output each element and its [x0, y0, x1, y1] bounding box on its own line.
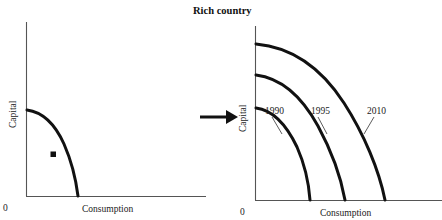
left-origin-label: 0	[3, 203, 8, 213]
curve-label-2010: 2010	[367, 106, 386, 116]
right-origin-label: 0	[240, 207, 245, 217]
right-ppf-curve-1995	[256, 75, 345, 200]
figure-title: Rich country	[193, 5, 252, 16]
left-ppf-point-marker	[51, 152, 57, 158]
right-y-axis-label: Capital	[238, 104, 248, 132]
left-y-axis-label: Capital	[8, 100, 18, 128]
curve-label-1995: 1995	[311, 106, 330, 116]
curve-label-1990: 1990	[265, 106, 284, 116]
right-panel-group: Rich country 1990 1995 2010 0 Consumptio…	[193, 5, 442, 218]
arrow-head-icon	[226, 110, 238, 124]
left-x-axis-label: Consumption	[82, 204, 133, 214]
transition-arrow	[200, 110, 238, 124]
economics-ppf-figure: 0 Consumption Capital Rich country	[0, 0, 442, 220]
right-ppf-curve-1990	[256, 108, 310, 200]
figure-canvas: 0 Consumption Capital Rich country	[0, 0, 442, 220]
right-x-axis-label: Consumption	[320, 208, 371, 218]
leader-line-2010	[364, 117, 374, 134]
left-panel-group: 0 Consumption Capital	[3, 22, 206, 214]
